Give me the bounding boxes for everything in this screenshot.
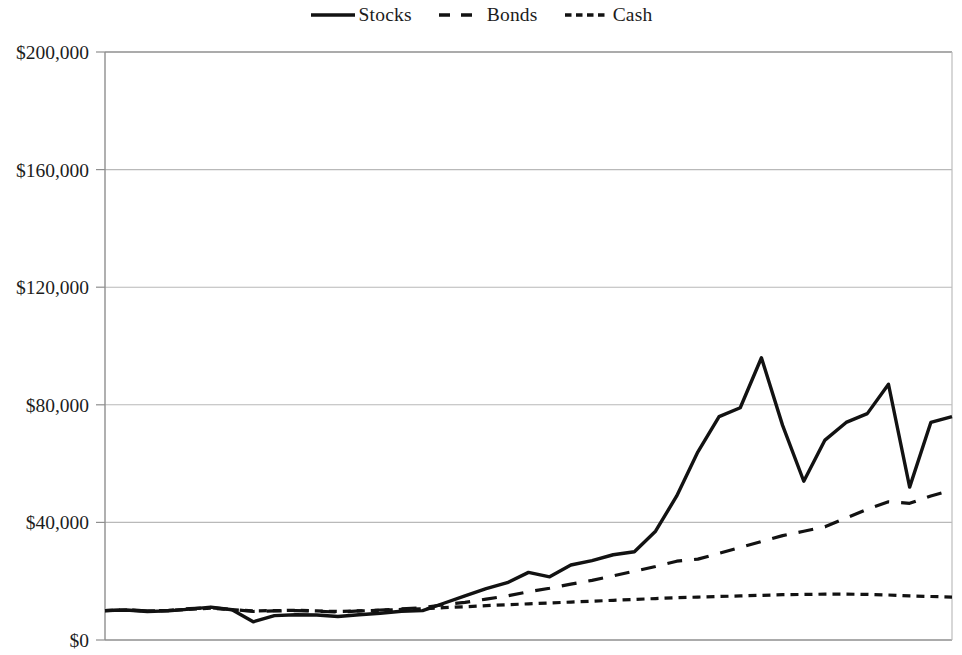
solid-line-icon — [310, 10, 356, 20]
gridlines — [96, 52, 952, 640]
y-axis-tick-label: $200,000 — [16, 42, 89, 63]
legend-entry-cash: Cash — [564, 4, 653, 26]
legend-entry-bonds: Bonds — [438, 4, 538, 26]
y-axis-tick-label: $160,000 — [16, 160, 89, 181]
legend-entry-stocks: Stocks — [310, 4, 412, 26]
data-series — [105, 358, 952, 622]
y-axis-tick-label: $120,000 — [16, 277, 89, 298]
series-line-cash — [105, 594, 952, 611]
dotted-line-icon — [564, 10, 610, 20]
axis-lines — [105, 52, 952, 640]
line-chart: Stocks Bonds Cash $0$40,000$80,000$120,0… — [0, 0, 962, 655]
y-axis-tick-label: $0 — [70, 630, 90, 651]
y-axis-tick-label: $80,000 — [26, 395, 89, 416]
plot-area: $0$40,000$80,000$120,000$160,000$200,000 — [0, 30, 962, 655]
legend-label-stocks: Stocks — [359, 4, 412, 26]
legend-label-cash: Cash — [613, 4, 653, 26]
chart-legend: Stocks Bonds Cash — [0, 0, 962, 30]
dashed-line-icon — [438, 10, 484, 20]
y-axis-tick-label: $40,000 — [26, 512, 89, 533]
legend-label-bonds: Bonds — [487, 4, 538, 26]
series-line-stocks — [105, 358, 952, 622]
y-axis-tick-labels: $0$40,000$80,000$120,000$160,000$200,000 — [16, 42, 89, 651]
